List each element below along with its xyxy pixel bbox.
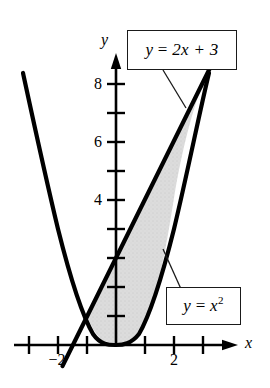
x-tick-label-neg2: −2 (44, 351, 70, 369)
x-tick-label-2: 2 (166, 351, 182, 369)
graph-figure: y x −2 2 4 6 8 y = 2x + 3 y = x2 (0, 0, 270, 388)
parabola-callout-leader (163, 249, 181, 289)
line-eq-operator: = (158, 40, 168, 59)
y-axis-arrow (111, 53, 121, 69)
y-tick-label-8: 8 (86, 75, 102, 93)
x-axis-label: x (245, 334, 252, 352)
y-tick-label-6: 6 (86, 133, 102, 151)
parabola-eq-rhs: x (210, 296, 218, 315)
x-axis-arrow (222, 340, 238, 350)
parabola-equation-text: y = x2 (183, 296, 224, 316)
line-equation-callout: y = 2x + 3 (127, 30, 237, 70)
parabola-eq-operator: = (196, 296, 206, 315)
y-axis-label: y (101, 31, 108, 49)
parabola-eq-lhs: y (183, 296, 191, 315)
line-eq-rhs: 2x + 3 (172, 40, 218, 59)
line-equation-text: y = 2x + 3 (145, 40, 218, 60)
y-tick-label-4: 4 (86, 191, 102, 209)
line-callout-leader (163, 70, 186, 108)
parabola-eq-exponent: 2 (218, 294, 224, 306)
parabola-equation-callout: y = x2 (166, 287, 241, 325)
